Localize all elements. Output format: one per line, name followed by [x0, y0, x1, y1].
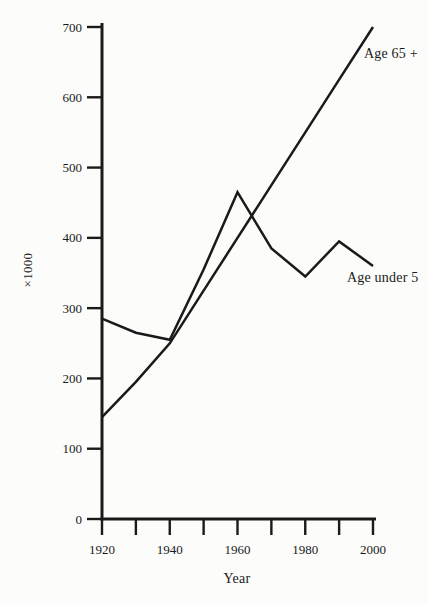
- age-65-plus-line: [102, 27, 373, 417]
- series-label-age-under-5: Age under 5: [347, 270, 418, 286]
- y-tick-label: 500: [63, 160, 83, 175]
- x-axis-ticks: [102, 519, 373, 535]
- y-axis-title: ×1000: [20, 240, 36, 300]
- x-tick-label: 2000: [360, 542, 386, 557]
- y-tick-label: 600: [63, 90, 83, 105]
- y-tick-label: 300: [63, 301, 83, 316]
- x-axis-tick-labels: 19201940196019802000: [89, 542, 386, 557]
- y-tick-label: 400: [63, 230, 83, 245]
- y-axis-tick-labels: 0100200300400500600700: [63, 20, 83, 527]
- y-tick-label: 200: [63, 371, 83, 386]
- x-tick-label: 1960: [225, 542, 251, 557]
- y-tick-label: 700: [63, 20, 83, 35]
- x-axis-title: Year: [177, 571, 297, 587]
- y-axis-ticks: [87, 27, 102, 519]
- y-tick-label: 100: [63, 441, 83, 456]
- chart-canvas: 0100200300400500600700 19201940196019802…: [0, 0, 428, 604]
- y-tick-label: 0: [76, 512, 83, 527]
- x-tick-label: 1920: [89, 542, 115, 557]
- population-age-line-chart: 0100200300400500600700 19201940196019802…: [0, 0, 428, 604]
- x-tick-label: 1940: [157, 542, 183, 557]
- x-tick-label: 1980: [292, 542, 318, 557]
- series-label-age-65-plus: Age 65 +: [364, 46, 418, 62]
- age-under-5-line: [102, 192, 373, 340]
